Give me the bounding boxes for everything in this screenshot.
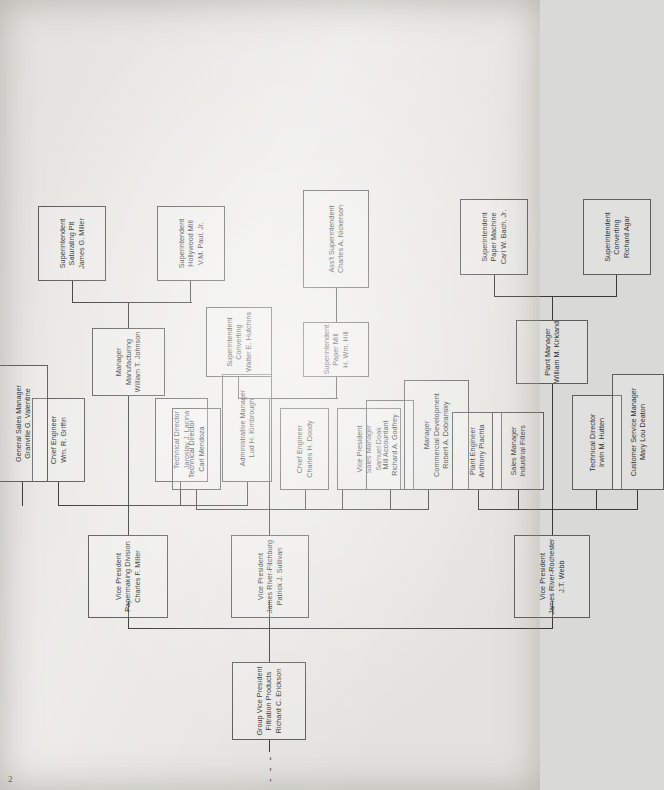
- connector-vpfitch-out: [269, 509, 270, 535]
- node-technical-director-mendoza[interactable]: Technical Director Carl Mendoza: [172, 408, 221, 490]
- node-line: Carl Mendoza: [197, 426, 206, 471]
- node-line: Chief Engineer: [49, 416, 58, 464]
- connector-root-in: [269, 740, 270, 752]
- node-superintendent-paper-machine-bach[interactable]: Superintendent Paper Machine Carl W. Bac…: [460, 199, 528, 275]
- node-line: Mary Lou Deaton: [638, 404, 647, 460]
- node-administrative-manager-kimbrough[interactable]: Administrative Manager Lud H. Kimbrough: [222, 374, 272, 482]
- node-plant-manager-kirkland[interactable]: Plant Manager William M. Kirkland: [516, 320, 588, 384]
- node-line: Sales Manager: [509, 427, 518, 476]
- node-line: Superintendent: [480, 212, 489, 261]
- node-superintendent-converting-hutchins[interactable]: Superintendent Converting Walter E. Hutc…: [206, 307, 272, 377]
- node-vp-rochester[interactable]: Vice President James River-Rochester J.T…: [514, 535, 590, 618]
- node-line: Superintendent: [322, 325, 331, 374]
- node-line: Carl W. Bach, Jr.: [499, 210, 508, 264]
- node-line: Lud H. Kimbrough: [247, 399, 256, 458]
- connector-vppaper-griffin: [58, 482, 59, 506]
- connector-vpfitch-mendoza: [196, 490, 197, 510]
- node-line: Group Vice President: [255, 666, 264, 735]
- node-vp-papermaking[interactable]: Vice President Papermaking Division Char…: [88, 535, 168, 618]
- node-line: Richard A. Godfrey: [390, 414, 399, 476]
- connector-vpfitch-doak: [342, 490, 343, 510]
- node-line: Manufacturing: [124, 339, 133, 385]
- node-line: Filtration Products: [264, 672, 273, 731]
- node-line: Charles A. Nickerson: [336, 205, 345, 273]
- node-asst-superintendent-nickerson[interactable]: Ass't Superintendent Charles A. Nickerso…: [303, 190, 369, 288]
- connector-root-out: [269, 628, 270, 662]
- node-vp-fitchburg[interactable]: Vice President James River-Fitchburg Pat…: [231, 535, 309, 618]
- connector-vppaper-out: [128, 505, 129, 535]
- node-line: Irwin M. Hutten: [597, 418, 606, 467]
- connector-mfg-spine: [72, 302, 192, 303]
- node-line: Richard C. Erickson: [274, 669, 283, 733]
- node-line: Technical Director: [187, 420, 196, 478]
- connector-vproch-kirkland: [552, 384, 553, 510]
- node-line: Saturating Plt: [67, 222, 76, 266]
- node-line: Wm. R. Griffin: [59, 417, 68, 463]
- node-line: Industrial Filters: [518, 425, 527, 477]
- node-line: Charles F. Miller: [133, 550, 142, 602]
- node-line: Converting: [612, 219, 621, 254]
- connector-vproch-hutten: [596, 490, 597, 510]
- connector-vpfitch-dobransky: [428, 490, 429, 510]
- connector-vproch-out: [552, 509, 553, 535]
- node-line: Papermaking Division: [123, 541, 132, 612]
- connector-mfg-miller: [72, 281, 73, 303]
- node-line: Vice President: [538, 553, 547, 600]
- node-line: James River-Fitchburg: [265, 540, 274, 613]
- page-number: 2: [8, 774, 13, 784]
- connector-vproch-piachta: [478, 490, 479, 510]
- connector-mfg-paul: [190, 281, 191, 303]
- node-line: General Sales Manager: [14, 385, 23, 462]
- node-line: Ass't Superintendent: [327, 205, 336, 272]
- node-line: J.T. Webb: [557, 560, 566, 592]
- connector-vproch-indfilt: [518, 490, 519, 510]
- node-line: Granville G. Valentine: [23, 388, 32, 458]
- connector-vppaper-valentine: [22, 482, 23, 506]
- node-root[interactable]: Group Vice President Filtration Products…: [232, 662, 306, 740]
- continuation-dots: - - -: [264, 755, 274, 782]
- node-chief-engineer-doody[interactable]: Chief Engineer Charles H. Doody: [280, 408, 329, 490]
- node-line: Technical Director: [588, 413, 597, 471]
- node-line: Patrick J. Sullivan: [275, 548, 284, 606]
- node-customer-service-manager-deaton[interactable]: Customer Service Manager Mary Lou Deaton: [612, 374, 664, 490]
- node-line: Commercial Development: [432, 393, 441, 477]
- node-line: Manager: [422, 421, 431, 450]
- node-line: Converting: [234, 324, 243, 359]
- node-line: H. Wm. Hill: [341, 331, 350, 367]
- node-general-sales-manager-valentine[interactable]: General Sales Manager Granville G. Valen…: [0, 365, 48, 482]
- connector-vppaper-spine: [58, 505, 248, 506]
- connector-vppaper-mfg: [128, 396, 129, 506]
- node-line: William T. Johnson: [133, 332, 142, 393]
- node-line: Chief Engineer: [295, 425, 304, 473]
- node-superintendent-saturating-miller[interactable]: Superintendent Saturating Plt James G. M…: [38, 206, 106, 281]
- node-superintendent-hollywood-paul[interactable]: Superintendent Hollywood Mill V.M. Paul,…: [157, 206, 225, 281]
- node-line: Customer Service Manager: [629, 388, 638, 477]
- connector-kirkland-bach: [494, 275, 495, 297]
- node-line: Plant Manager: [543, 328, 552, 375]
- connector-root-spine: [128, 628, 553, 629]
- node-line: William M. Kirkland: [552, 321, 561, 383]
- node-line: Plant Engineer: [468, 427, 477, 475]
- node-superintendent-converting-agar[interactable]: Superintendent Converting Richard Agar: [583, 199, 651, 275]
- node-line: Mill Accountant: [381, 420, 390, 469]
- node-line: Anthony Piachta: [477, 424, 486, 477]
- node-line: Superintendent: [603, 212, 612, 261]
- connector-vpfitch-spine: [196, 509, 428, 510]
- connector-vppaper-kimbrough: [247, 482, 248, 506]
- node-superintendent-paper-mill-hill[interactable]: Superintendent Paper Mill H. Wm. Hill: [303, 322, 369, 377]
- node-sales-manager-industrial-filters[interactable]: Sales Manager Industrial Filters: [492, 412, 544, 490]
- connector-kirkland-agar: [616, 275, 617, 297]
- node-line: V.M. Paul, Jr.: [196, 222, 205, 265]
- node-line: Superintendent: [225, 317, 234, 366]
- node-manager-manufacturing-johnson[interactable]: Manager Manufacturing William T. Johnson: [92, 328, 165, 396]
- node-line: James River-Rochester: [547, 538, 556, 614]
- connector-mfg-out: [128, 302, 129, 328]
- node-line: Vice President: [256, 553, 265, 600]
- node-line: Manager: [114, 348, 123, 377]
- connector-vpfitch-godfrey: [390, 490, 391, 510]
- node-line: Vice President: [114, 553, 123, 600]
- node-line: Administrative Manager: [238, 390, 247, 467]
- connector-supt-hill: [336, 377, 337, 399]
